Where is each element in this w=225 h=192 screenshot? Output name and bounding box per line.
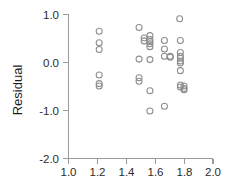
scatter-point — [96, 28, 102, 34]
y-tick-label: 1.0 — [43, 9, 59, 21]
scatter-point — [147, 57, 153, 63]
x-tick-label: 1.4 — [119, 166, 136, 178]
scatter-point — [136, 56, 142, 62]
x-tick-label: 1.8 — [177, 166, 193, 178]
y-tick-label: -1.0 — [39, 105, 59, 117]
x-axis-tick-labels: 1.0 1.2 1.4 1.6 1.8 2.0 — [61, 166, 222, 178]
scatter-point — [96, 47, 102, 53]
x-tick-label: 1.2 — [90, 166, 106, 178]
x-tick-label: 2.0 — [205, 166, 221, 178]
y-axis-tick-labels: 1.0 0.0 -1.0 -2.0 — [39, 9, 59, 165]
scatter-plot-figure: 1.0 0.0 -1.0 -2.0 1.0 1.2 1.4 1.6 1.8 2.… — [0, 0, 225, 192]
scatter-point — [136, 24, 142, 30]
scatter-point — [177, 68, 183, 74]
scatter-point — [96, 72, 102, 78]
scatter-point — [147, 88, 153, 94]
plot-axes — [68, 14, 213, 159]
residual-scatter-chart: 1.0 0.0 -1.0 -2.0 1.0 1.2 1.4 1.6 1.8 2.… — [0, 0, 225, 192]
y-axis-ticks — [63, 15, 69, 159]
x-axis-ticks — [69, 159, 214, 165]
scatter-point — [96, 40, 102, 46]
scatter-point — [161, 53, 167, 59]
scatter-point — [147, 108, 153, 114]
y-tick-label: 0.0 — [43, 57, 59, 69]
y-tick-label: -2.0 — [39, 153, 59, 165]
y-axis-title: Residual — [10, 65, 25, 116]
x-tick-label: 1.6 — [148, 166, 164, 178]
scatter-point — [161, 37, 167, 43]
scatter-point — [177, 16, 183, 22]
scatter-point — [177, 37, 183, 43]
x-tick-label: 1.0 — [61, 166, 77, 178]
scatter-point — [161, 46, 167, 52]
data-point-group — [96, 16, 187, 114]
scatter-point — [161, 103, 167, 109]
